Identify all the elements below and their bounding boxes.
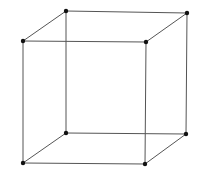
edge-front-bottom-right-to-back-bottom-right <box>145 134 186 164</box>
vertex-back-top-left <box>64 9 68 13</box>
cube-edges <box>23 11 187 164</box>
edge-front-bottom-left-to-back-bottom-left <box>23 133 66 163</box>
vertex-front-top-left <box>21 39 25 43</box>
edge-front-top-left-to-front-top-right <box>23 41 146 42</box>
vertex-front-bottom-right <box>143 162 147 166</box>
cube-vertices <box>21 9 189 166</box>
vertex-back-top-right <box>185 11 189 15</box>
edge-front-bottom-right-to-front-bottom-left <box>23 163 145 164</box>
edge-back-bottom-right-to-back-bottom-left <box>66 133 186 134</box>
edge-front-top-right-to-back-top-right <box>146 13 187 42</box>
edge-back-top-left-to-back-top-right <box>66 11 187 13</box>
vertex-back-bottom-left <box>64 131 68 135</box>
vertex-front-top-right <box>144 40 148 44</box>
cube-diagram <box>0 0 200 179</box>
edge-front-top-right-to-front-bottom-right <box>145 42 146 164</box>
vertex-back-bottom-right <box>184 132 188 136</box>
edge-front-top-left-to-back-top-left <box>23 11 66 41</box>
vertex-front-bottom-left <box>21 161 25 165</box>
edge-back-top-right-to-back-bottom-right <box>186 13 187 134</box>
wireframe-cube <box>0 0 200 179</box>
